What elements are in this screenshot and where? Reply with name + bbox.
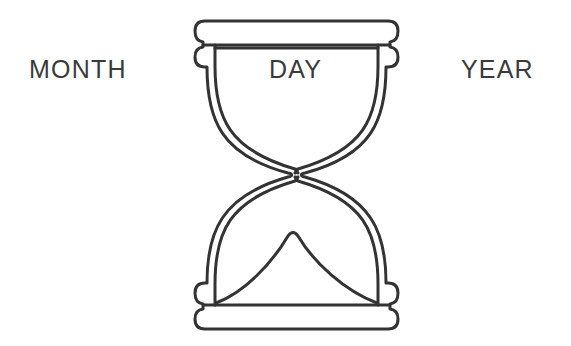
hourglass-illustration: MONTH DAY YEAR — [0, 0, 571, 346]
hourglass-graphic — [0, 0, 571, 346]
label-month: MONTH — [29, 57, 127, 82]
label-year: YEAR — [461, 57, 534, 82]
label-day: DAY — [269, 57, 322, 82]
